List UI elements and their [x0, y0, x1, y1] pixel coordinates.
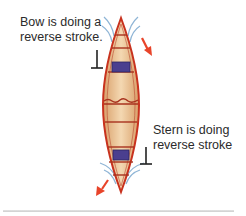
canoe-diagram — [0, 0, 246, 216]
stern-movement-arrow — [96, 180, 108, 196]
bow-paddle-symbol — [91, 50, 103, 68]
bottom-divider — [3, 210, 234, 212]
canoe-hull — [103, 18, 139, 192]
bow-seat — [112, 62, 130, 72]
bow-movement-arrow — [142, 38, 152, 56]
stern-paddle-symbol — [140, 147, 152, 164]
stern-seat — [113, 150, 129, 160]
